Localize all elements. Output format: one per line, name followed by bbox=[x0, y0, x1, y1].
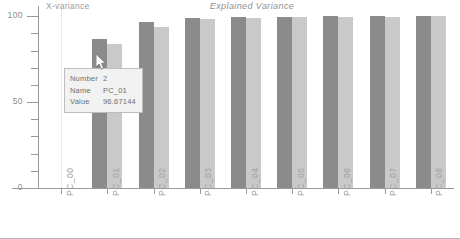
bar-PC_06-series-1[interactable] bbox=[338, 17, 353, 188]
mouse-cursor-icon bbox=[96, 54, 107, 75]
chart-window: Explained Variance X-variance PCs 050100… bbox=[0, 0, 460, 239]
y-tick-40 bbox=[31, 119, 38, 120]
y-tick-60 bbox=[31, 85, 38, 86]
y-tick-50: 50 bbox=[27, 102, 38, 103]
tooltip-value-value: 96.67144 bbox=[103, 96, 136, 108]
bar-PC_05-series-1[interactable] bbox=[292, 17, 307, 188]
tooltip-value-key: Value bbox=[70, 96, 103, 108]
x-tick-PC_06 bbox=[338, 188, 339, 194]
bar-PC_05-series-0[interactable] bbox=[277, 17, 292, 188]
bar-PC_04-series-0[interactable] bbox=[231, 17, 246, 188]
x-tick-PC_01 bbox=[107, 188, 108, 194]
y-tick-90 bbox=[31, 33, 38, 34]
bar-PC_07-series-0[interactable] bbox=[370, 16, 385, 188]
y-tick-30 bbox=[31, 136, 38, 137]
bar-PC_04-series-1[interactable] bbox=[246, 18, 261, 188]
x-tick-label-PC_00: PC_00 bbox=[65, 168, 75, 197]
y-tick-0: 0 bbox=[27, 188, 38, 189]
y-tick-100: 100 bbox=[27, 16, 38, 17]
tooltip-name-value: PC_01 bbox=[103, 85, 127, 97]
bar-PC_06-series-0[interactable] bbox=[323, 16, 338, 188]
x-tick-PC_07 bbox=[385, 188, 386, 194]
bar-PC_03-series-0[interactable] bbox=[185, 18, 200, 188]
y-tick-70 bbox=[31, 68, 38, 69]
x-tick-label-PC_01: PC_01 bbox=[111, 168, 121, 197]
bar-PC_01-series-1[interactable] bbox=[107, 44, 122, 188]
y-tick-80 bbox=[31, 51, 38, 52]
x-tick-PC_02 bbox=[154, 188, 155, 194]
y-tick-label-100: 100 bbox=[8, 10, 23, 20]
x-tick-label-PC_03: PC_03 bbox=[203, 168, 213, 197]
tooltip-row-name: Name PC_01 bbox=[70, 85, 136, 97]
x-tick-PC_00 bbox=[61, 188, 62, 194]
tooltip-name-key: Name bbox=[70, 85, 103, 97]
x-tick-label-PC_02: PC_02 bbox=[157, 168, 167, 197]
x-tick-PC_05 bbox=[292, 188, 293, 194]
x-tick-label-PC_04: PC_04 bbox=[250, 168, 260, 197]
x-tick-label-PC_06: PC_06 bbox=[342, 168, 352, 197]
y-tick-10 bbox=[31, 171, 38, 172]
x-tick-label-PC_08: PC_08 bbox=[434, 168, 444, 197]
bar-PC_02-series-1[interactable] bbox=[154, 27, 169, 188]
y-tick-20 bbox=[31, 154, 38, 155]
x-tick-PC_03 bbox=[200, 188, 201, 194]
y-tick-label-0: 0 bbox=[18, 182, 23, 192]
bar-PC_08-series-1[interactable] bbox=[431, 16, 446, 188]
bar-PC_07-series-1[interactable] bbox=[385, 17, 400, 188]
x-tick-label-PC_07: PC_07 bbox=[388, 168, 398, 197]
x-tick-label-PC_05: PC_05 bbox=[296, 168, 306, 197]
bar-PC_03-series-1[interactable] bbox=[200, 19, 215, 188]
y-tick-label-50: 50 bbox=[13, 96, 23, 106]
bar-PC_08-series-0[interactable] bbox=[416, 16, 431, 188]
x-tick-PC_08 bbox=[431, 188, 432, 194]
tooltip-row-value: Value 96.67144 bbox=[70, 96, 136, 108]
x-tick-PC_04 bbox=[246, 188, 247, 194]
